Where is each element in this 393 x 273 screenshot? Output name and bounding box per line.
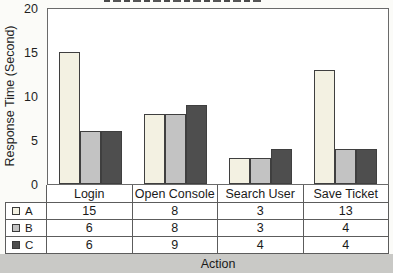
table-value-cell-b-1: 8 [133, 220, 219, 237]
bar-series-a-3 [314, 70, 335, 184]
x-axis-title: Action [47, 257, 389, 271]
table-corner-cell [5, 185, 47, 203]
bar-series-a-1 [144, 114, 165, 184]
bar-group-login [48, 9, 133, 184]
table-row-series-a: A158313 [5, 203, 389, 220]
legend-swatch-a-icon [12, 207, 20, 215]
legend-series-label: C [25, 239, 33, 251]
bar-series-a-2 [229, 158, 250, 184]
table-value-cell-a-2: 3 [218, 203, 304, 220]
bar-series-a-0 [59, 52, 80, 184]
table-value-cell-c-3: 4 [304, 237, 390, 254]
bar-group-search-user [218, 9, 303, 184]
legend-cell-a: A [5, 203, 47, 220]
bar-series-b-1 [165, 114, 186, 184]
bar-series-b-0 [80, 131, 101, 184]
table-value-cell-c-1: 9 [133, 237, 219, 254]
y-tick-label-5: 5 [31, 134, 38, 148]
table-value-cell-a-1: 8 [133, 203, 219, 220]
legend-series-label: A [25, 205, 33, 217]
bar-group-save-ticket [303, 9, 388, 184]
data-table: LoginOpen ConsoleSearch UserSave TicketA… [5, 185, 389, 254]
table-header-cell-search-user: Search User [218, 185, 304, 203]
bar-series-c-0 [101, 131, 122, 184]
bar-series-b-3 [335, 149, 356, 184]
table-row-series-c: C6944 [5, 237, 389, 254]
bar-series-c-3 [356, 149, 377, 184]
chart-figure: Response Time (Second) 05101520 LoginOpe… [0, 0, 393, 273]
legend-swatch-b-icon [12, 224, 20, 232]
y-tick-label-20: 20 [24, 2, 38, 16]
table-header-cell-login: Login [47, 185, 133, 203]
cut-off-title-text [104, 0, 262, 2]
y-tick-label-10: 10 [24, 90, 38, 104]
table-value-cell-a-0: 15 [47, 203, 133, 220]
legend-cell-c: C [5, 237, 47, 254]
bar-series-c-1 [186, 105, 207, 184]
bar-series-c-2 [271, 149, 292, 184]
table-value-cell-b-0: 6 [47, 220, 133, 237]
table-value-cell-a-3: 13 [304, 203, 390, 220]
table-value-cell-c-2: 4 [218, 237, 304, 254]
legend-swatch-c-icon [12, 241, 20, 249]
table-value-cell-c-0: 6 [47, 237, 133, 254]
bar-group-open-console [133, 9, 218, 184]
table-row-series-b: B6834 [5, 220, 389, 237]
table-value-cell-b-3: 4 [304, 220, 390, 237]
table-header-row: LoginOpen ConsoleSearch UserSave Ticket [5, 185, 389, 203]
legend-cell-b: B [5, 220, 47, 237]
plot-area [47, 8, 389, 185]
table-header-cell-open-console: Open Console [133, 185, 219, 203]
y-tick-label-15: 15 [24, 46, 38, 60]
table-value-cell-b-2: 3 [218, 220, 304, 237]
y-axis-ticks: 05101520 [0, 8, 42, 185]
bar-series-b-2 [250, 158, 271, 184]
table-header-cell-save-ticket: Save Ticket [304, 185, 390, 203]
legend-series-label: B [25, 222, 33, 234]
